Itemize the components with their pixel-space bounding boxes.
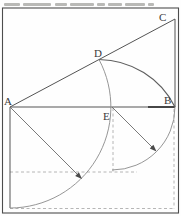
point-label-a: A — [4, 95, 12, 107]
figure-frame — [3, 8, 179, 213]
point-label-b: B — [164, 94, 171, 106]
point-label-d: D — [94, 47, 102, 59]
point-label-e: E — [103, 110, 110, 122]
line-a-to-c — [10, 19, 175, 107]
point-label-c: C — [159, 11, 166, 23]
arrow-shaft-from-e — [112, 107, 153, 148]
arc-centered-a-d-through-e — [10, 60, 111, 209]
scanned-figure: A B C D E — [0, 0, 181, 216]
arrow-shaft-from-a — [10, 107, 79, 176]
geometry-diagram: A B C D E — [0, 0, 181, 216]
